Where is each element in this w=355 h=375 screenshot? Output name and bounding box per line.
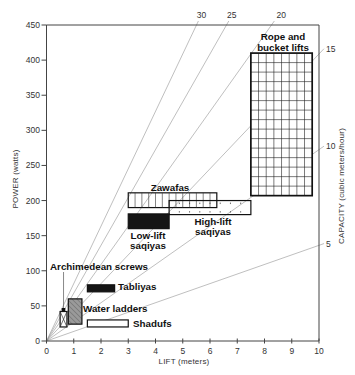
region-label: Water ladders [83, 303, 148, 314]
capacity-line [47, 21, 275, 341]
region-label: saqiyas [130, 240, 167, 251]
x-tick-label: 6 [208, 346, 213, 356]
region-label: Archimedean screws [50, 261, 149, 272]
region-box [87, 320, 128, 327]
x-tick-label: 5 [180, 346, 185, 356]
power-lift-chart: 012345678910050100150200250300350400450 … [0, 0, 355, 375]
y-tick-label: 200 [26, 196, 40, 206]
region-label: Shadufs [133, 318, 172, 329]
region-box [68, 299, 82, 324]
region-low-lift-saqiyas [128, 214, 169, 229]
region-water-ladders [68, 299, 82, 324]
x-tick-label: 4 [153, 346, 158, 356]
x-tick-label: 1 [71, 346, 76, 356]
capacity-line-label: 20 [277, 10, 287, 20]
x-tick-label: 10 [314, 346, 324, 356]
region-label: Tabliyas [118, 281, 157, 292]
y-tick-label: 150 [26, 231, 40, 241]
capacity-line-label: 5 [326, 239, 331, 249]
region-label: saqiyas [195, 226, 232, 237]
y-tick-label: 50 [31, 301, 41, 311]
capacity-line [47, 21, 199, 341]
y-tick-label: 450 [26, 20, 40, 30]
y-tick-label: 0 [35, 336, 40, 346]
y-tick-label: 100 [26, 266, 40, 276]
region-label: bucket lifts [257, 42, 309, 53]
x-tick-label: 8 [262, 346, 267, 356]
capacity-line-label: 25 [227, 10, 237, 20]
x-tick-label: 2 [99, 346, 104, 356]
y-tick-label: 350 [26, 90, 40, 100]
y-axis-title: POWER (watts) [11, 149, 20, 208]
y2-axis-title: CAPACITY (cubic meters/hour) [337, 128, 346, 244]
capacity-line-label: 10 [326, 141, 336, 151]
capacity-line [47, 21, 229, 341]
x-tick-label: 3 [126, 346, 131, 356]
x-tick-label: 7 [235, 346, 240, 356]
x-axis-title: LIFT (meters) [159, 357, 210, 366]
leader-marker [62, 308, 66, 312]
x-tick-label: 0 [44, 346, 49, 356]
x-tick-label: 9 [289, 346, 294, 356]
region-shadufs [87, 320, 128, 327]
region-label: Zawafas [151, 182, 190, 193]
y-tick-label: 400 [26, 55, 40, 65]
region-tabliyas [87, 285, 114, 292]
region-rope-and-bucket-lifts [251, 53, 312, 196]
y-tick-label: 300 [26, 125, 40, 135]
y-tick-label: 250 [26, 160, 40, 170]
region-label: Rope and [261, 31, 306, 42]
capacity-line-label: 15 [326, 44, 336, 54]
capacity-line-label: 30 [197, 10, 207, 20]
region-box [128, 214, 169, 229]
region-box [87, 285, 114, 292]
